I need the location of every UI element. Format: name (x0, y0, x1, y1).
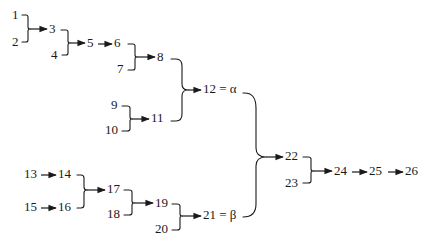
brace-alpha-beta (243, 93, 266, 217)
node-9: 9 (111, 97, 118, 112)
node-13: 13 (24, 166, 37, 181)
node-3: 3 (49, 21, 56, 36)
brace-6-7 (128, 44, 137, 70)
node-14: 14 (58, 166, 72, 181)
node-4: 4 (51, 47, 58, 62)
node-6: 6 (114, 35, 121, 50)
brace-22-23 (303, 157, 313, 183)
node-8: 8 (157, 49, 164, 64)
node-19: 19 (155, 195, 168, 210)
node-16: 16 (58, 199, 72, 214)
node-18: 18 (107, 206, 120, 221)
node-10: 10 (105, 122, 118, 137)
node-24: 24 (334, 163, 348, 178)
node-2: 2 (12, 34, 19, 49)
node-17: 17 (107, 181, 121, 196)
node-15: 15 (24, 199, 37, 214)
brace-1-2 (22, 15, 30, 42)
node-21-beta: 21 = β (203, 207, 237, 222)
node-5: 5 (87, 35, 94, 50)
node-11: 11 (151, 110, 164, 125)
brace-9-10 (122, 106, 132, 131)
node-12-alpha: 12 = α (203, 81, 237, 96)
brace-14-16 (77, 175, 87, 208)
brace-3-4 (61, 30, 70, 55)
node-22: 22 (285, 148, 298, 163)
brace-8-11 (171, 59, 188, 121)
brace-17-18 (124, 190, 134, 215)
node-20: 20 (155, 221, 168, 236)
brace-19-20 (172, 204, 182, 230)
node-23: 23 (285, 175, 298, 190)
merge-diagram: 1 2 3 4 5 6 7 8 9 10 11 12 = α 13 14 15 … (0, 0, 431, 250)
node-25: 25 (369, 163, 382, 178)
node-26: 26 (405, 163, 419, 178)
node-1: 1 (12, 7, 19, 22)
node-7: 7 (117, 61, 124, 76)
